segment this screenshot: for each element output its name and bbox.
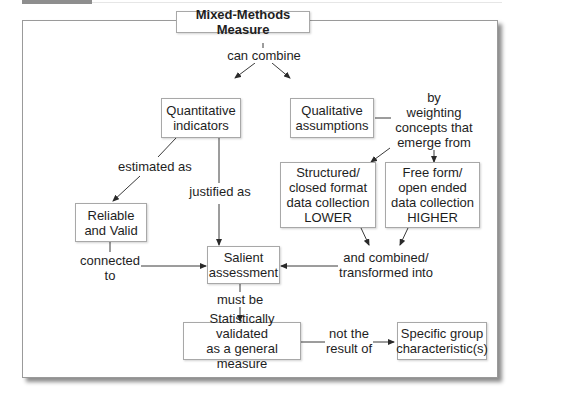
node-label: assumptions	[296, 118, 369, 133]
label-line: connected	[80, 253, 140, 268]
node-mixed-methods-measure: Mixed-Methods Measure	[176, 11, 310, 33]
label-line: concepts that	[395, 120, 472, 135]
edge-label-can-combine: can combine	[225, 48, 303, 63]
node-label: characteristic(s)	[396, 341, 488, 356]
node-label: and Valid	[84, 223, 137, 238]
label-line: and combined/	[343, 250, 428, 265]
edge-label-estimated-as: estimated as	[118, 159, 190, 174]
node-label: LOWER	[304, 210, 352, 225]
node-label: Specific group	[401, 326, 483, 341]
edge-label-must-be: must be	[214, 292, 266, 307]
edge-quant-to-estimated	[158, 138, 176, 157]
node-label: Structured/	[296, 165, 360, 180]
node-label: assessment	[209, 265, 278, 280]
node-label: Quantitative	[166, 103, 235, 118]
label-line: emerge from	[397, 135, 471, 150]
label-line: result of	[326, 341, 372, 356]
edge-weighting-to-structured	[371, 148, 390, 162]
edge-label-connected-to: connected to	[80, 253, 140, 283]
node-statistically-validated: Statistically validated as a general mea…	[183, 322, 301, 360]
node-reliable-and-valid: Reliable and Valid	[75, 203, 147, 242]
edge-label-combined-transformed: and combined/ transformed into	[338, 250, 434, 280]
node-label: Free form/	[403, 165, 463, 180]
node-label: indicators	[173, 118, 229, 133]
label-line: by	[427, 90, 441, 105]
edge-combine-to-qual	[272, 63, 290, 78]
edge-label-justified-as: justified as	[188, 184, 252, 199]
node-label: Reliable	[88, 208, 135, 223]
node-label: open ended	[398, 180, 467, 195]
node-label: Qualitative	[301, 103, 362, 118]
edge-label-not-result-of: not the result of	[325, 326, 373, 356]
edge-structured-to-combined	[361, 228, 369, 245]
edge-freeform-to-combined	[400, 228, 408, 245]
node-quantitative-indicators: Quantitative indicators	[161, 98, 241, 138]
label-line: transformed into	[339, 265, 433, 280]
node-label: data collection	[286, 195, 369, 210]
node-qualitative-assumptions: Qualitative assumptions	[290, 98, 374, 138]
node-specific-group-characteristics: Specific group characteristic(s)	[397, 322, 487, 360]
node-salient-assessment: Salient assessment	[207, 246, 280, 284]
node-label: Mixed-Methods Measure	[177, 7, 309, 37]
node-free-form-open-ended: Free form/ open ended data collection HI…	[385, 162, 480, 228]
node-label: closed format	[289, 180, 367, 195]
node-label: Statistically validated	[209, 311, 274, 341]
node-label: as a general measure	[206, 341, 278, 371]
label-line: weighting	[407, 105, 462, 120]
node-label: HIGHER	[407, 210, 458, 225]
node-structured-closed-format: Structured/ closed format data collectio…	[280, 162, 376, 228]
edge-estimated-to-reliable	[113, 176, 140, 201]
edge-combine-to-quant	[235, 63, 255, 78]
node-label: data collection	[391, 195, 474, 210]
label-line: to	[105, 268, 116, 283]
edge-label-by-weighting: by weighting concepts that emerge from	[390, 90, 478, 150]
node-label: Salient	[224, 250, 264, 265]
label-line: not the	[329, 326, 369, 341]
